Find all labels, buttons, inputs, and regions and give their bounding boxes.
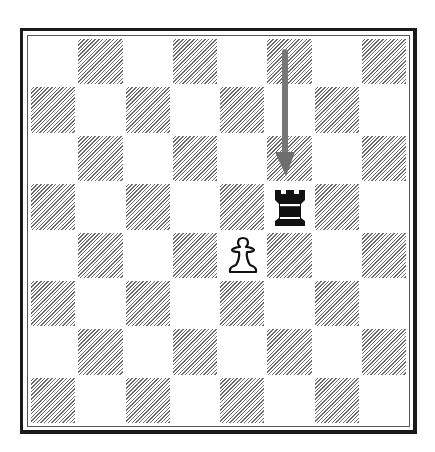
black-rook-icon [270,186,310,228]
square-a1 [31,378,75,423]
square-e6 [219,135,266,183]
square-g1 [315,378,359,423]
square-d8 [173,39,217,84]
square-e8 [219,38,266,86]
chessboard [30,38,408,425]
square-g4 [314,232,361,280]
square-b2 [78,329,122,374]
square-h6 [362,136,406,181]
square-a3 [31,281,75,326]
square-h2 [362,329,406,374]
square-d3 [172,280,219,328]
square-b6 [78,136,122,181]
square-h5 [361,183,408,231]
square-d7 [172,86,219,134]
square-b3 [77,280,124,328]
square-h4 [362,233,406,278]
square-f1 [266,377,313,425]
square-c7 [126,87,170,132]
square-f3 [266,280,313,328]
square-c4 [125,232,172,280]
square-a8 [30,38,77,86]
square-e1 [220,378,264,423]
square-h1 [361,377,408,425]
square-a6 [30,135,77,183]
square-e5 [220,184,264,229]
square-c6 [125,135,172,183]
white-pawn-icon [223,235,263,277]
square-f4 [267,233,311,278]
square-c1 [126,378,170,423]
square-c8 [125,38,172,86]
square-b8 [78,39,122,84]
square-g2 [314,328,361,376]
square-b7 [77,86,124,134]
square-g7 [315,87,359,132]
square-d4 [173,233,217,278]
square-e4 [219,232,266,280]
square-c3 [126,281,170,326]
square-g5 [315,184,359,229]
square-f8 [267,39,311,84]
square-h7 [361,86,408,134]
square-c2 [125,328,172,376]
square-d5 [172,183,219,231]
square-c5 [126,184,170,229]
square-d2 [173,329,217,374]
square-f5 [266,183,313,231]
square-h3 [361,280,408,328]
square-e2 [219,328,266,376]
square-g3 [315,281,359,326]
square-a5 [31,184,75,229]
square-e3 [220,281,264,326]
square-d6 [173,136,217,181]
square-g8 [314,38,361,86]
square-e7 [220,87,264,132]
square-f6 [267,136,311,181]
square-b4 [78,233,122,278]
square-a4 [30,232,77,280]
square-b5 [77,183,124,231]
square-g6 [314,135,361,183]
square-h8 [362,39,406,84]
square-b1 [77,377,124,425]
square-f7 [266,86,313,134]
square-d1 [172,377,219,425]
square-a2 [30,328,77,376]
square-a7 [31,87,75,132]
square-f2 [267,329,311,374]
